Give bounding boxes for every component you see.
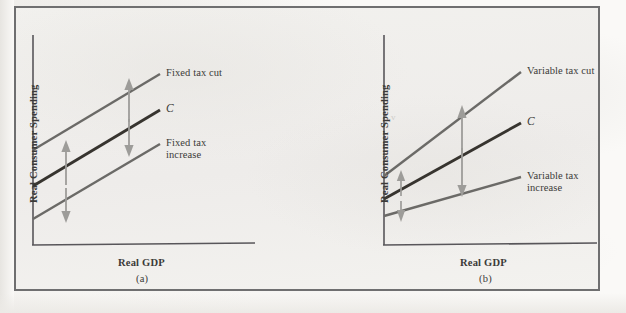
panel-a-x-axis: [32, 243, 255, 245]
panel-a-shift-down-arrow: [61, 188, 70, 223]
figure-frame: Real Consumer Spending Fixed tax cut C F…: [14, 6, 600, 291]
panel-a-line-c: [33, 110, 160, 186]
panel-b-label-c: C: [527, 115, 535, 129]
figure-page: Real Consumer Spending Fixed tax cut C F…: [0, 0, 626, 313]
panel-a-label-c: C: [166, 102, 174, 116]
panel-b-y-axis-label: Real Consumer Spending: [379, 84, 391, 203]
panel-a-y-axis-label: Real Consumer Spending: [28, 84, 40, 203]
panel-a-shift-up-arrow-right: [124, 78, 133, 122]
page-edge-shadow-left: [0, 0, 14, 313]
panel-a-label-fixed-tax-increase-line2: increase: [166, 149, 201, 161]
panel-a-label-fixed-tax-increase-line1: Fixed tax: [166, 137, 206, 149]
page-edge-shadow-bottom: [0, 293, 626, 313]
panel-b-x-axis-label: Real GDP: [460, 257, 507, 269]
panel-b-caption: (b): [479, 273, 492, 285]
panel-a-x-axis-label: Real GDP: [118, 257, 165, 269]
panel-a-line-fixed-tax-increase: [33, 144, 160, 219]
panel-a-caption: (a): [136, 273, 148, 285]
panel-b: v Real Consumer Spending Variable tax cu…: [309, 8, 602, 293]
panel-b-label-variable-tax-cut: Variable tax cut: [527, 65, 595, 77]
panel-b-shift-down-arrow: [397, 201, 405, 222]
panel-b-x-axis: [383, 243, 597, 245]
panel-b-shift-up-arrow-right: [457, 105, 466, 154]
panel-a-shift-up-arrow: [61, 140, 70, 185]
panel-b-plot: [309, 8, 602, 293]
panel-a-label-fixed-tax-cut: Fixed tax cut: [166, 67, 222, 79]
panel-a: Real Consumer Spending Fixed tax cut C F…: [16, 8, 309, 293]
panel-a-plot: [16, 8, 309, 293]
panel-b-label-variable-tax-increase-line2: increase: [527, 182, 562, 194]
panel-b-label-variable-tax-increase-line1: Variable tax: [527, 170, 579, 182]
panel-a-shift-down-arrow-right: [124, 119, 133, 157]
panel-a-line-fixed-tax-cut: [33, 74, 160, 150]
